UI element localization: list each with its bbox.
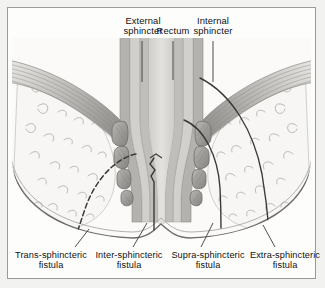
label-extra-sphincteric-line2: fistula bbox=[247, 260, 323, 270]
label-inter-sphincteric-line1: Inter-sphincteric bbox=[91, 250, 167, 260]
figure-frame: External sphincter Rectum Internal sphin… bbox=[0, 0, 325, 288]
label-supra-sphincteric-fistula: Supra-sphincteric fistula bbox=[168, 250, 248, 270]
leader-trans-sphincteric bbox=[75, 229, 89, 247]
label-trans-sphincteric-fistula: Trans-sphincteric fistula bbox=[12, 250, 90, 270]
body-field bbox=[8, 8, 315, 278]
label-inter-sphincteric-fistula: Inter-sphincteric fistula bbox=[91, 250, 167, 270]
leader-extra-sphincteric bbox=[263, 225, 275, 247]
label-internal-sphincter-line2: sphincter bbox=[180, 26, 246, 36]
illustration-panel: External sphincter Rectum Internal sphin… bbox=[7, 7, 316, 279]
label-trans-sphincteric-line2: fistula bbox=[12, 260, 90, 270]
label-supra-sphincteric-line2: fistula bbox=[168, 260, 248, 270]
label-internal-sphincter: Internal sphincter bbox=[180, 16, 246, 37]
label-trans-sphincteric-line1: Trans-sphincteric bbox=[12, 250, 90, 260]
label-extra-sphincteric-line1: Extra-sphincteric bbox=[247, 250, 323, 260]
label-supra-sphincteric-line1: Supra-sphincteric bbox=[168, 250, 248, 260]
anatomy-illustration bbox=[8, 8, 315, 278]
label-inter-sphincteric-line2: fistula bbox=[91, 260, 167, 270]
label-extra-sphincteric-fistula: Extra-sphincteric fistula bbox=[247, 250, 323, 270]
